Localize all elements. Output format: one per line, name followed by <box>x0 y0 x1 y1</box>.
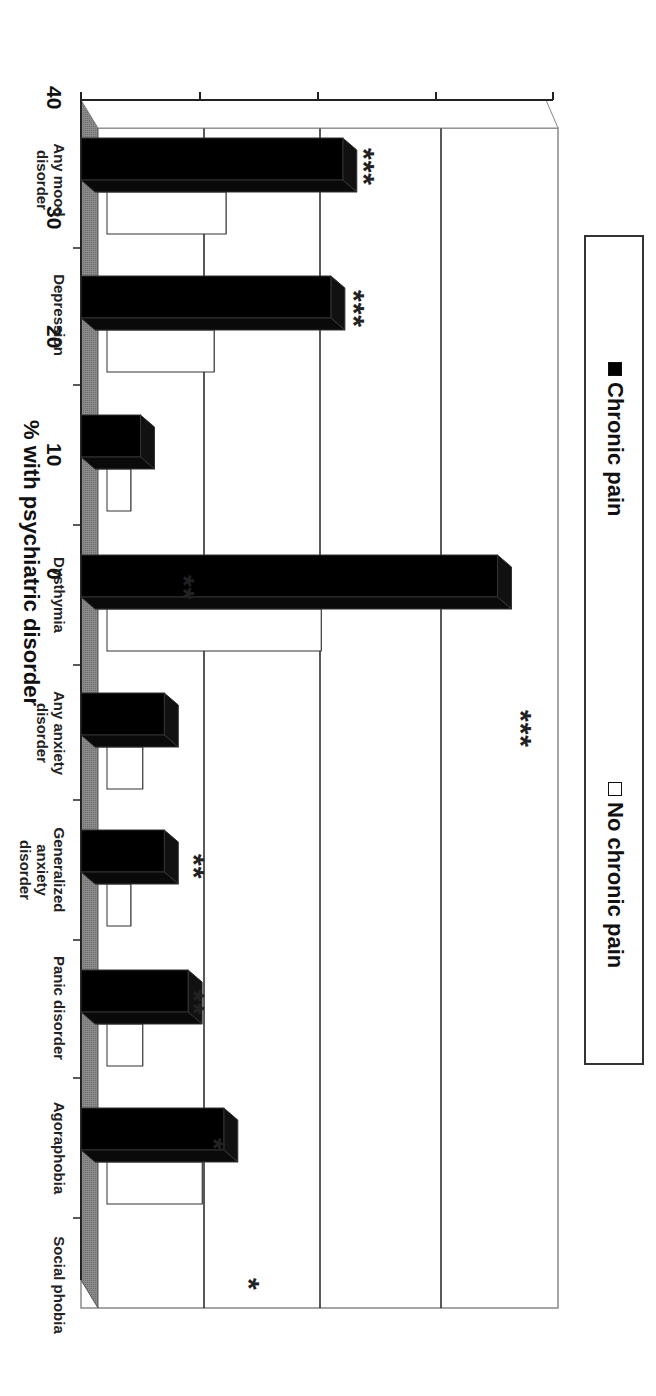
bar-chronic-pain <box>81 138 357 192</box>
category-dysthymia: Dysthymia <box>51 535 68 655</box>
category-any-anxiety-disorder: Any anxietydisorder <box>34 673 68 793</box>
category-agoraphobia: Agoraphobia <box>51 1088 68 1208</box>
significance-marker: ** <box>177 990 211 1015</box>
category-social-phobia: Social phobia <box>51 1225 68 1345</box>
bar-chronic-pain <box>81 693 178 747</box>
category-generalized-anxiety-disorder: Generalizedanxietydisorder <box>17 810 68 930</box>
bar-chronic-pain <box>81 555 512 609</box>
bar-chronic-pain <box>81 1108 238 1162</box>
chart-stage: Chronic pain No chronic pain <box>0 0 656 1396</box>
plot-area <box>0 0 656 1396</box>
significance-marker: ** <box>177 854 211 879</box>
significance-marker: * <box>232 1278 266 1291</box>
bar-chronic-pain <box>81 830 178 884</box>
significance-marker: *** <box>504 710 538 748</box>
y-tick-10: 10 <box>42 443 66 466</box>
significance-marker: *** <box>347 148 381 186</box>
significance-marker: ** <box>167 575 201 600</box>
category-depression: Depression <box>51 255 68 375</box>
y-axis-label: % with psychiatric disorder <box>18 420 44 706</box>
y-tick-40: 40 <box>42 86 66 109</box>
significance-marker: * <box>197 1138 231 1151</box>
bar-chronic-pain <box>81 415 155 469</box>
category-panic-disorder: Panic disorder <box>51 948 68 1068</box>
category-any-mood-disorder: Any mooddisorder <box>34 120 68 240</box>
significance-marker: *** <box>337 290 371 328</box>
bar-chronic-pain <box>81 276 345 330</box>
